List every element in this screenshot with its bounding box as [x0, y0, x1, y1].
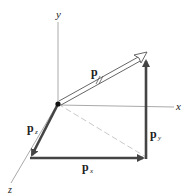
svg-text:y: y	[157, 134, 162, 142]
x-axis	[58, 105, 174, 107]
dashed-projection-line	[58, 104, 146, 157]
svg-text:z: z	[34, 128, 38, 136]
vector-py-label: p y	[150, 127, 162, 142]
x-axis-label: x	[175, 100, 181, 112]
origin-point	[55, 101, 60, 106]
vector-diagram: y x z p p z p x p y	[0, 0, 189, 195]
svg-text:p: p	[150, 127, 157, 141]
svg-text:p: p	[82, 160, 89, 174]
vector-p-arrow	[59, 52, 147, 105]
y-axis-label: y	[55, 8, 61, 20]
z-axis-label: z	[7, 184, 12, 195]
svg-text:x: x	[89, 167, 94, 175]
svg-text:p: p	[27, 121, 34, 135]
vector-px-label: p x	[82, 160, 94, 175]
vector-p-label: p	[91, 65, 98, 79]
vector-pz-label: p z	[27, 121, 38, 136]
